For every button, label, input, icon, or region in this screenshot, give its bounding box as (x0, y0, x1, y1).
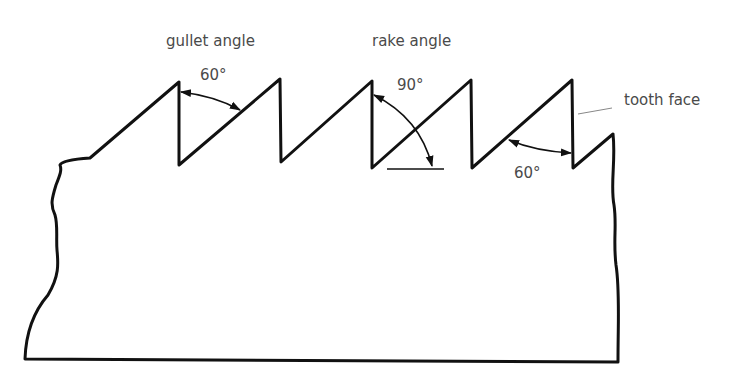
gullet-angle-label: gullet angle (166, 32, 255, 50)
rake-angle-arc (374, 95, 432, 166)
rake-angle-value: 90° (397, 76, 424, 94)
face-angle-value: 60° (514, 164, 541, 182)
face-angle-arc (509, 140, 571, 153)
tooth-face-leader (578, 108, 612, 114)
rake-angle-label: rake angle (372, 32, 451, 50)
tooth-face-label: tooth face (624, 91, 700, 109)
blade-outline (25, 79, 619, 362)
saw-tooth-diagram: gullet angle rake angle tooth face 60° 9… (0, 0, 748, 377)
gullet-angle-arc (181, 92, 240, 110)
gullet-angle-value: 60° (200, 66, 227, 84)
